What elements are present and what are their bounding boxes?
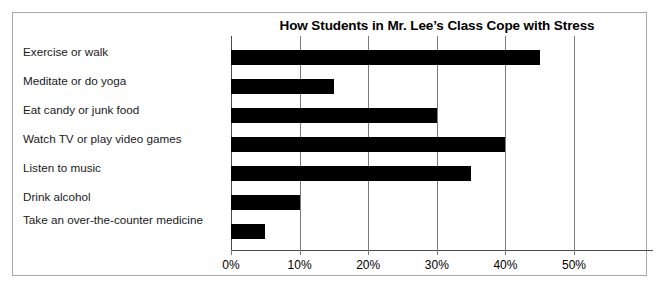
x-axis-tick [231, 250, 232, 255]
category-label: Exercise or walk [23, 45, 228, 58]
bar [231, 137, 505, 152]
bar [231, 50, 540, 65]
bar [231, 195, 300, 210]
plot-area: 0%10%20%30%40%50% [231, 36, 653, 250]
x-axis-tick [574, 250, 575, 255]
x-axis-line [231, 250, 653, 251]
x-axis-tick-label: 50% [562, 258, 586, 272]
x-axis-tick [437, 250, 438, 255]
category-label: Watch TV or play video games [23, 132, 228, 145]
bar [231, 79, 334, 94]
x-axis-tick-label: 0% [222, 258, 239, 272]
x-axis-tick-label: 20% [356, 258, 380, 272]
x-axis-tick [300, 250, 301, 255]
category-label: Meditate or do yoga [23, 74, 228, 87]
x-axis-tick-label: 30% [425, 258, 449, 272]
category-label: Take an over-the-counter medicine [23, 213, 228, 226]
gridline [574, 36, 575, 250]
category-label: Listen to music [23, 161, 228, 174]
category-label: Drink alcohol [23, 190, 228, 203]
chart-title: How Students in Mr. Lee’s Class Cope wit… [232, 18, 642, 33]
chart-figure: How Students in Mr. Lee’s Class Cope wit… [12, 12, 647, 276]
category-label: Eat candy or junk food [23, 103, 228, 116]
gridline [505, 36, 506, 250]
x-axis-tick-label: 10% [288, 258, 312, 272]
x-axis-tick-label: 40% [493, 258, 517, 272]
bar [231, 166, 471, 181]
x-axis-tick [368, 250, 369, 255]
bar [231, 224, 265, 239]
bar [231, 108, 437, 123]
x-axis-tick [505, 250, 506, 255]
